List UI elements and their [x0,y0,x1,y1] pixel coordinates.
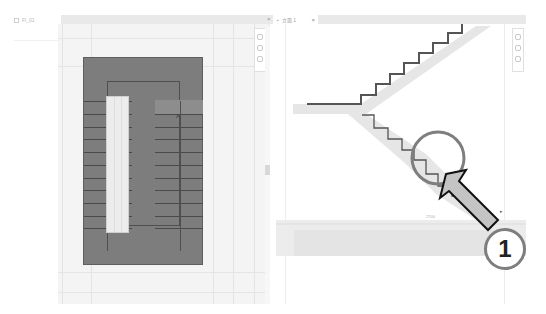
tab-label: 立面 1 [282,16,296,23]
tab-strip-empty [318,15,526,24]
stair-plan[interactable]: ^ [83,57,203,265]
project-browser-item[interactable]: Fl_01 [14,15,35,25]
checkbox-icon[interactable] [14,18,19,23]
tab-icon: ▪ [277,17,279,23]
tab-plan-view[interactable] [61,15,273,24]
app-window: Fl_01 × ▪ 立面 1 × [0,0,546,314]
stair-well [106,96,129,233]
viewport-scrollbar[interactable] [265,27,270,304]
up-arrow-icon: ^ [176,113,180,123]
callout-badge: 1 [484,228,526,270]
orbit-icon[interactable] [257,56,263,62]
project-item-label: Fl_01 [22,17,35,23]
divider [14,40,58,41]
tab-elevation[interactable]: ▪ 立面 1 × [276,15,318,24]
pan-icon[interactable] [257,45,263,51]
close-icon[interactable]: × [267,16,271,22]
plan-viewport[interactable]: ^ [58,24,270,304]
callout-number: 1 [498,235,511,263]
svg-text:2700: 2700 [426,214,436,219]
close-icon[interactable]: × [311,17,315,23]
zoom-icon[interactable] [257,34,263,40]
svg-text:▸: ▸ [500,208,503,214]
